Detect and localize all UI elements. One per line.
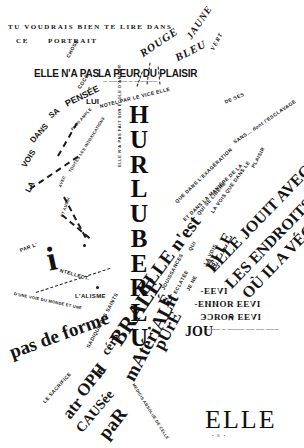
ray-dot bbox=[96, 286, 99, 289]
color-word-vert: VERT bbox=[209, 31, 224, 51]
color-word-jaune: JAUNE bbox=[185, 4, 214, 41]
left-fan-vois: VOIS bbox=[21, 149, 38, 169]
intellect-under: D'UNE VOIE DU MONDE ET UNE bbox=[14, 292, 83, 310]
headline-left: ELLE N'A PAS bbox=[34, 69, 99, 79]
diagonal-small-qui: QUI bbox=[188, 240, 197, 251]
word-de-ses: DE SES bbox=[224, 92, 245, 105]
ray-stroke bbox=[57, 123, 78, 157]
left-fan-small-3: AVEC bbox=[58, 175, 67, 188]
intellect-letter-i: i bbox=[43, 241, 59, 276]
jou-trail: — —— — ———— —— —— ——— bbox=[206, 327, 279, 331]
left-fan-dans: DANS bbox=[29, 122, 50, 144]
diagonal-small-jene: JE NE bbox=[186, 275, 198, 292]
header-line-2-ce: CE bbox=[16, 38, 29, 45]
header-line-1: TU VOUDRAIS BIEN TE LIRE DANS bbox=[8, 24, 172, 31]
center-letter: L bbox=[122, 177, 156, 202]
center-letter: B bbox=[122, 227, 156, 252]
color-word-bleu: BLEU bbox=[174, 38, 209, 63]
intellect-par: PAR L' bbox=[19, 242, 38, 253]
poster-canvas: TU VOUDRAIS BIEN TE LIRE DANS CE PORTRAI… bbox=[0, 0, 304, 448]
left-fan-sa: SA bbox=[48, 107, 62, 120]
right-fan-line-plaisir: PLAISIR bbox=[251, 146, 266, 168]
word-medici: MÉDICIS ABSOLUE DE CELLE bbox=[131, 383, 169, 440]
elle-logo-subtitle: • R • bbox=[212, 434, 227, 438]
center-letter: U bbox=[122, 128, 156, 153]
ray-dot bbox=[83, 244, 86, 247]
intellect-alisme: L'ALISME bbox=[75, 293, 106, 299]
diagonal-small-eclatee: ECLATÉE bbox=[173, 270, 190, 295]
center-letter: R bbox=[122, 153, 156, 178]
center-word-side-note: ELLE N'A PAS FAIT SON ÉCOLE D'AMOUR bbox=[118, 65, 122, 167]
right-fan-line-5: SANS… dont l'ESCLAVAGE bbox=[233, 99, 297, 145]
elle-logo: ELLE bbox=[205, 405, 277, 435]
center-letter: U bbox=[122, 202, 156, 227]
center-letter: H bbox=[122, 103, 156, 128]
mirrored-text: IVƎƎ คОЯCЄ bbox=[200, 313, 261, 322]
mirrored-line-3: IVƎƎ คОЯCЄ bbox=[200, 307, 261, 323]
word-lui: LUI bbox=[86, 98, 99, 106]
headline-caption: — —— —— — — ———— bbox=[103, 79, 157, 83]
